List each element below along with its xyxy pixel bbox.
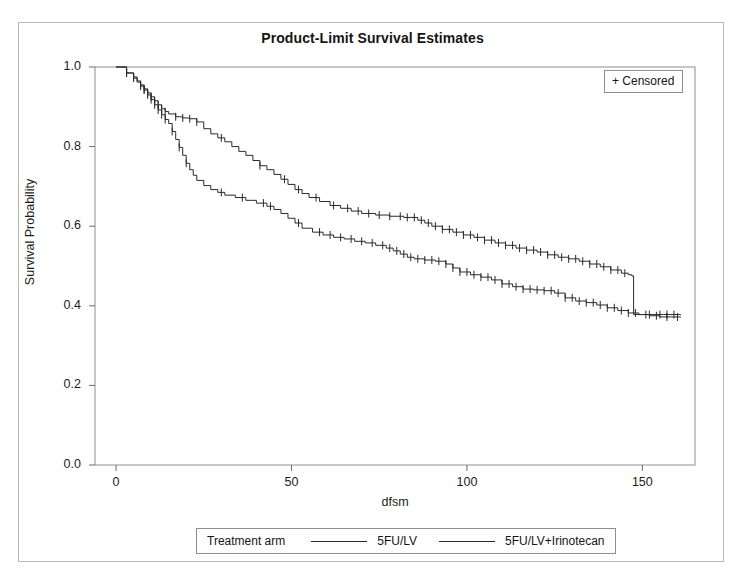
legend-entry-5fulv: 5FU/LV: [311, 534, 417, 548]
legend-line-icon: [311, 541, 367, 542]
legend-entry-label: 5FU/LV+Irinotecan: [505, 534, 605, 548]
y-axis-tick-label: 0.8: [37, 139, 81, 153]
y-axis-tick-label: 0.4: [37, 298, 81, 312]
legend-entry-5fulv-irinotecan: 5FU/LV+Irinotecan: [439, 534, 605, 548]
x-axis-tick-label: 50: [261, 475, 321, 489]
legend-entry-label: 5FU/LV: [377, 534, 417, 548]
plot-frame: [95, 67, 695, 465]
y-axis-tick-label: 0.2: [37, 377, 81, 391]
y-axis-tick-label: 0.0: [37, 457, 81, 471]
treatment-arm-legend: Treatment arm 5FU/LV 5FU/LV+Irinotecan: [196, 528, 616, 554]
legend-title: Treatment arm: [207, 534, 285, 548]
legend-line-icon: [439, 541, 495, 542]
x-axis-tick-label: 150: [612, 475, 672, 489]
censored-legend: + Censored: [604, 70, 683, 93]
x-axis-label: dfsm: [95, 495, 695, 509]
survival-curve: [116, 67, 681, 317]
y-axis-tick-label: 0.6: [37, 218, 81, 232]
y-axis-tick-label: 1.0: [37, 59, 81, 73]
y-axis-label: Survival Probability: [23, 142, 37, 322]
survival-curve: [116, 67, 681, 315]
survival-plot-figure: Product-Limit Survival Estimates Surviva…: [0, 0, 745, 584]
x-axis-tick-label: 100: [437, 475, 497, 489]
x-axis-tick-label: 0: [86, 475, 146, 489]
